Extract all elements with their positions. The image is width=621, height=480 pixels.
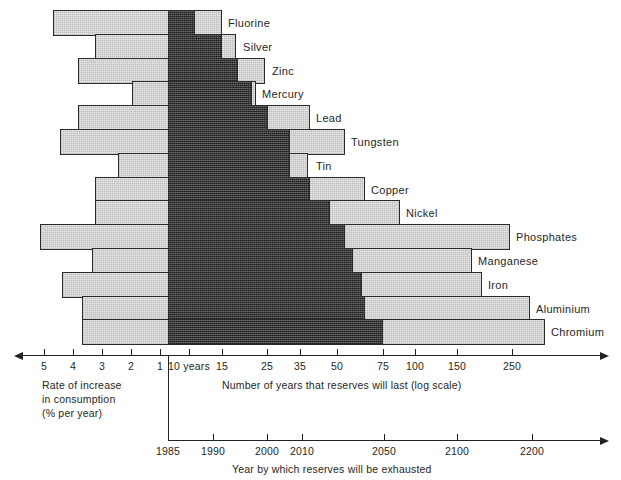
bar-segment-exponential-reserve xyxy=(168,58,238,84)
bottom-axis-tick xyxy=(168,434,169,441)
bottom-axis-tick xyxy=(384,434,385,441)
top-axis-tick xyxy=(512,349,513,356)
bottom-axis-tick-label: 1990 xyxy=(201,445,225,457)
bar-label: Copper xyxy=(371,177,409,203)
bar-row[interactable]: Tungsten xyxy=(0,129,621,155)
bottom-axis-tick-label: 2050 xyxy=(372,445,396,457)
top-axis-tick-label: 5 xyxy=(41,360,47,372)
top-axis-tick-label: 150 xyxy=(448,360,466,372)
top-axis-line xyxy=(22,355,600,356)
bottom-axis-tick-label: 2010 xyxy=(290,445,314,457)
top-axis-tick xyxy=(415,349,416,356)
bar-segment-exponential-reserve xyxy=(168,319,383,345)
top-axis-tick xyxy=(337,349,338,356)
origin-vertical-rule xyxy=(168,355,169,440)
bar-row[interactable]: Copper xyxy=(0,177,621,203)
bar-label: Aluminium xyxy=(536,296,590,322)
bar-row[interactable]: Aluminium xyxy=(0,296,621,322)
bar-row[interactable]: Tin xyxy=(0,153,621,179)
bar-row[interactable]: Zinc xyxy=(0,58,621,84)
bottom-axis-tick-label: 2100 xyxy=(445,445,469,457)
bar-segment-exponential-reserve xyxy=(168,34,222,60)
bar-row[interactable]: Lead xyxy=(0,105,621,131)
top-axis-tick xyxy=(160,349,161,356)
resource-depletion-chart: FluorineSilverZincMercuryLeadTungstenTin… xyxy=(0,0,621,480)
bar-segment-exponential-reserve xyxy=(168,272,362,298)
bar-label: Iron xyxy=(488,272,508,298)
bar-segment-exponential-reserve xyxy=(168,105,268,131)
top-axis-tick-label: 4 xyxy=(70,360,76,372)
bottom-axis-caption: Year by which reserves will be exhausted xyxy=(232,462,432,476)
bar-segment-exponential-reserve xyxy=(168,296,365,322)
top-axis-tick-label: 75 xyxy=(377,360,389,372)
bar-row[interactable]: Phosphates xyxy=(0,224,621,250)
top-axis-tick xyxy=(300,349,301,356)
bar-label: Silver xyxy=(243,34,272,60)
bar-row[interactable]: Chromium xyxy=(0,319,621,345)
top-axis-tick xyxy=(44,349,45,356)
bottom-axis-tick xyxy=(302,434,303,441)
bottom-axis-tick xyxy=(532,434,533,441)
bar-row[interactable]: Mercury xyxy=(0,81,621,107)
bar-row[interactable]: Silver xyxy=(0,34,621,60)
top-axis-tick xyxy=(457,349,458,356)
top-axis-tick xyxy=(73,349,74,356)
bar-segment-exponential-reserve xyxy=(168,224,345,250)
top-axis-tick xyxy=(222,349,223,356)
top-axis-tick xyxy=(267,349,268,356)
bottom-axis-right-arrow-icon xyxy=(600,437,609,445)
top-axis-right-caption: Number of years that reserves will last … xyxy=(222,378,462,392)
bar-label: Mercury xyxy=(262,81,304,107)
bar-row[interactable]: Nickel xyxy=(0,200,621,226)
bar-segment-exponential-reserve xyxy=(168,81,252,107)
bottom-axis-tick xyxy=(213,434,214,441)
bar-row[interactable]: Manganese xyxy=(0,248,621,274)
bar-label: Nickel xyxy=(406,200,438,226)
bar-label: Phosphates xyxy=(516,224,577,250)
top-axis-tick xyxy=(131,349,132,356)
top-axis-tick-label: 250 xyxy=(503,360,521,372)
bar-segment-exponential-reserve xyxy=(168,177,310,203)
top-axis-tick-label: 100 xyxy=(406,360,424,372)
bottom-axis-tick-label: 2200 xyxy=(520,445,544,457)
top-axis-tick-label: 1 xyxy=(157,360,163,372)
bar-segment-static-reserve xyxy=(53,10,222,36)
bar-segment-exponential-reserve xyxy=(168,200,330,226)
top-axis-tick-label: 35 xyxy=(294,360,306,372)
bar-label: Zinc xyxy=(272,58,294,84)
bar-segment-exponential-reserve xyxy=(168,129,290,155)
bar-label: Lead xyxy=(316,105,342,131)
bottom-axis-tick xyxy=(267,434,268,441)
bar-label: Tin xyxy=(316,153,332,179)
top-axis-tick-label: 15 xyxy=(216,360,228,372)
top-axis-right-arrow-icon xyxy=(600,352,609,360)
top-axis-tick-label: 10 years xyxy=(168,360,210,372)
bar-row[interactable]: Iron xyxy=(0,272,621,298)
top-axis-tick-label: 25 xyxy=(261,360,273,372)
top-axis-tick xyxy=(383,349,384,356)
bar-segment-exponential-reserve xyxy=(168,248,353,274)
bar-segment-exponential-reserve xyxy=(168,10,195,36)
top-axis-tick-label: 3 xyxy=(99,360,105,372)
bar-label: Chromium xyxy=(551,319,604,345)
bar-label: Manganese xyxy=(478,248,538,274)
top-axis-tick-label: 2 xyxy=(128,360,134,372)
bottom-axis-tick xyxy=(457,434,458,441)
bottom-axis-tick-label: 1985 xyxy=(156,445,180,457)
top-axis-tick xyxy=(189,349,190,356)
top-axis-tick xyxy=(102,349,103,356)
top-axis-left-arrow-icon xyxy=(14,352,23,360)
bar-row[interactable]: Fluorine xyxy=(0,10,621,36)
bottom-axis-tick-label: 2000 xyxy=(255,445,279,457)
top-axis-left-caption: Rate of increase in consumption (% per y… xyxy=(42,378,122,420)
bar-segment-exponential-reserve xyxy=(168,153,290,179)
bar-label: Tungsten xyxy=(351,129,399,155)
bar-label: Fluorine xyxy=(228,10,270,36)
top-axis-tick-label: 50 xyxy=(331,360,343,372)
